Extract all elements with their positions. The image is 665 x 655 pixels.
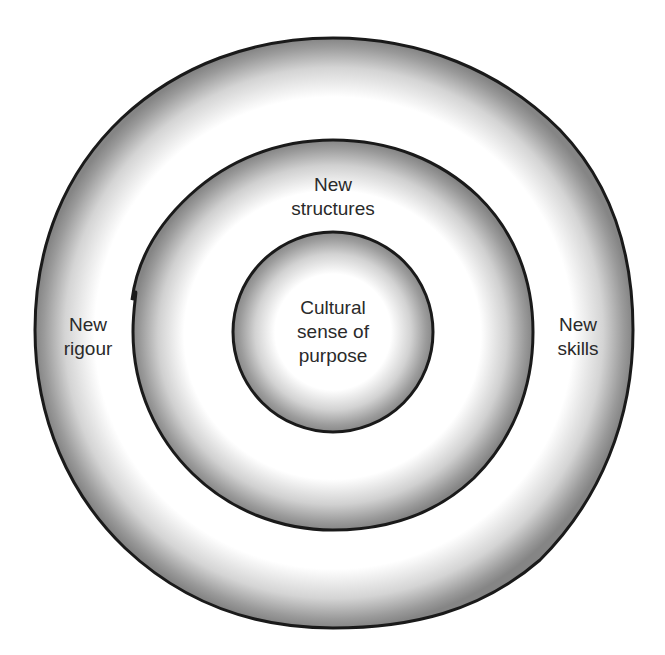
label-cultural-sense-of-purpose: Cultural sense of purpose [297,296,369,368]
label-new-rigour: New rigour [64,313,113,361]
label-new-skills: New skills [557,313,598,361]
label-new-structures: New structures [291,173,374,221]
concentric-circles-diagram: Cultural sense of purpose New structures… [0,0,665,655]
